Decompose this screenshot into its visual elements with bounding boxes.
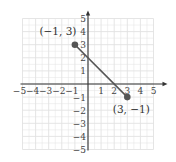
y-tick-label: 4 (80, 27, 86, 37)
y-tick-label: −1 (73, 93, 86, 103)
x-tick-label: −4 (26, 86, 40, 96)
y-tick-label: 5 (80, 14, 86, 24)
y-tick-label: 1 (80, 66, 86, 76)
x-axis-arrow-icon (163, 82, 168, 86)
x-tick-label: −3 (39, 86, 53, 96)
x-tick-label: 1 (98, 86, 104, 96)
point-label: (3, −1) (113, 103, 150, 115)
y-tick-label: −3 (73, 119, 87, 129)
y-tick-label: −5 (73, 145, 87, 155)
point-label: (−1, 3) (39, 25, 76, 37)
y-tick-label: 3 (80, 40, 86, 50)
x-tick-label: 2 (111, 86, 117, 96)
data-point (72, 41, 79, 48)
coordinate-plane: −5−4−3−2−112345−5−4−3−2−112345 (−1, 3)(3… (0, 0, 176, 162)
y-tick-label: −2 (73, 106, 86, 116)
x-tick-label: 4 (138, 86, 144, 96)
data-point (124, 94, 131, 101)
x-tick-label: −5 (13, 86, 27, 96)
x-tick-label: −2 (52, 86, 65, 96)
y-axis-arrow-icon (86, 11, 90, 16)
x-tick-label: 5 (151, 86, 157, 96)
y-tick-label: −4 (73, 132, 87, 142)
